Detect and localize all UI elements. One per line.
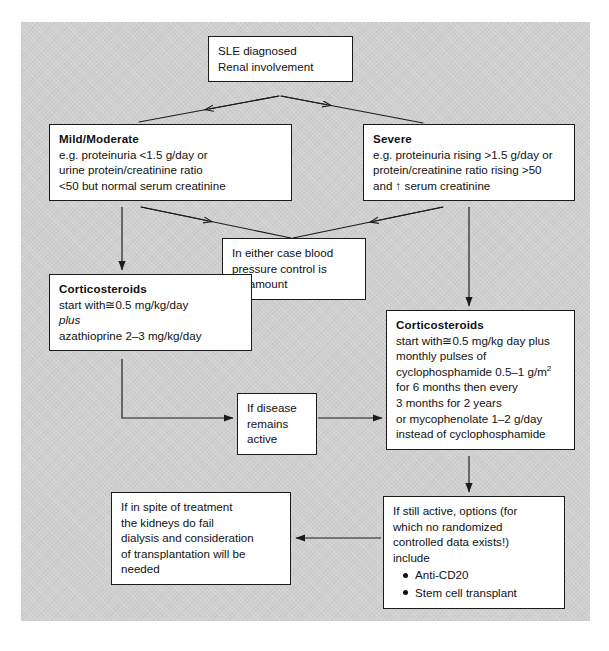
severe-line-2: protein/creatinine ratio rising >50 [373,162,565,178]
mild-line-3: <50 but normal serum creatinine [59,178,282,194]
node-corticosteroids-mild: Corticosteroids start with≅0.5 mg/kg/day… [49,274,252,351]
cortico-right-line-1: start with≅0.5 mg/kg day plus [396,333,565,349]
cortico-right-line-6: or mycophenolate 1–2 g/day [396,411,565,427]
cortico-right-line-5: 3 months for 2 years [396,395,565,411]
node-severe: Severe e.g. proteinuria rising >1.5 g/da… [363,124,575,201]
node-sle-diagnosed: SLE diagnosed Renal involvement [208,36,353,82]
cortico-right-line-4: for 6 months then every [396,379,565,395]
still-bullet-2: Stem cell transplant [393,585,555,601]
kidneys-line-5: needed [121,561,281,577]
severe-line-1: e.g. proteinuria rising >1.5 g/day or [373,147,565,163]
cortico-right-title: Corticosteroids [396,317,565,333]
node-if-disease-remains-active: If disease remains active [237,393,317,455]
cyclophosphamide-dose-exponent: 2 [547,364,551,373]
disease-line-3: active [247,431,307,447]
still-line-3: controlled data exists!) [393,534,555,550]
either-line-1: In either case blood [232,245,356,261]
still-bullet-2-label: Stem cell transplant [415,586,517,599]
cortico-right-line-7: instead of cyclophosphamide [396,426,565,442]
node-kidneys-fail-dialysis: If in spite of treatment the kidneys do … [111,492,291,585]
node-mild-moderate: Mild/Moderate e.g. proteinuria <1.5 g/da… [49,124,292,201]
severe-title: Severe [373,131,565,147]
still-line-4: include [393,550,555,566]
still-line-1: If still active, options (for [393,503,555,519]
node-corticosteroids-severe: Corticosteroids start with≅0.5 mg/kg day… [386,310,575,450]
mild-line-2: urine protein/creatinine ratio [59,162,282,178]
still-line-2: which no randomized [393,519,555,535]
kidneys-line-1: If in spite of treatment [121,499,281,515]
cortico-left-line-3: azathioprine 2–3 mg/kg/day [59,328,242,344]
mild-title: Mild/Moderate [59,131,282,147]
cortico-right-line-2: monthly pulses of [396,348,565,364]
still-bullet-1: Anti-CD20 [393,567,555,583]
cortico-left-line-1: start with≅0.5 mg/kg/day [59,297,242,313]
cortico-left-plus: plus [59,312,242,328]
sle-line-2: Renal involvement [218,59,343,75]
mild-line-1: e.g. proteinuria <1.5 g/day or [59,147,282,163]
severe-line-3: and ↑ serum creatinine [373,178,565,194]
bullet-dot-icon [403,573,408,578]
kidneys-line-3: dialysis and consideration [121,530,281,546]
cortico-right-cyclophosphamide-line: cyclophosphamide 0.5–1 g/m2 [396,364,565,380]
kidneys-line-2: the kidneys do fail [121,515,281,531]
sle-line-1: SLE diagnosed [218,43,343,59]
cyclophosphamide-dose: cyclophosphamide 0.5–1 g/m [396,365,547,378]
node-if-still-active-options: If still active, options (for which no r… [383,496,565,609]
still-bullet-1-label: Anti-CD20 [415,568,468,581]
kidneys-line-4: of transplantation will be [121,546,281,562]
figure-canvas: SLE diagnosed Renal involvement Mild/Mod… [0,0,609,651]
disease-line-1: If disease [247,400,307,416]
cortico-left-title: Corticosteroids [59,281,242,297]
disease-line-2: remains [247,416,307,432]
bullet-dot-icon [403,590,408,595]
